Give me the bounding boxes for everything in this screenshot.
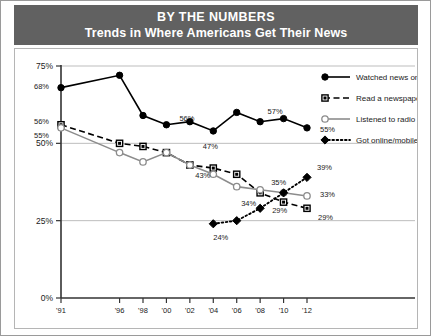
data-point-label: 47% — [203, 142, 218, 151]
data-point-label: 57% — [268, 107, 283, 116]
legend-item-2[interactable]: Read a newspaper — [322, 94, 417, 103]
legend-label: Got online/mobile news — [356, 136, 417, 145]
series-1 — [58, 72, 310, 134]
line-chart-plot: 0%25%50%75%'91'96'98'00'02'04'06'08'10'1… — [15, 49, 417, 328]
chart-title: BY THE NUMBERS — [157, 10, 275, 25]
data-point-label: 56% — [179, 114, 194, 123]
ytick-label: 25% — [36, 216, 53, 226]
xtick-label: '06 — [232, 306, 242, 315]
legend-item-1[interactable]: Watched news on TV — [322, 73, 417, 82]
series-3 — [58, 125, 310, 199]
xtick-label: '02 — [185, 306, 195, 315]
chart-header-bar: BY THE NUMBERS Trends in Where Americans… — [14, 5, 418, 45]
data-point-label: 56% — [34, 117, 49, 126]
xtick-label: '00 — [162, 306, 172, 315]
ytick-label: 75% — [36, 61, 53, 71]
legend-label: Listened to radio news — [356, 115, 417, 124]
series-2 — [58, 122, 310, 212]
xtick-label: '10 — [279, 306, 289, 315]
data-point-label: 29% — [272, 206, 287, 215]
chart-subtitle: Trends in Where Americans Get Their News — [85, 25, 348, 41]
series-4 — [209, 173, 311, 228]
legend-item-3[interactable]: Listened to radio news — [322, 115, 417, 124]
data-point-label: 34% — [241, 199, 256, 208]
data-point-label: 68% — [34, 82, 49, 91]
data-point-label: 55% — [320, 125, 335, 134]
xtick-label: '04 — [208, 306, 218, 315]
chart-panel: 0%25%50%75%'91'96'98'00'02'04'06'08'10'1… — [14, 48, 418, 329]
xtick-label: '91 — [56, 306, 66, 315]
xtick-label: '98 — [138, 306, 148, 315]
data-point-label: 24% — [213, 233, 228, 242]
data-point-label: 43% — [195, 171, 210, 180]
chart-figure: BY THE NUMBERS Trends in Where Americans… — [0, 0, 431, 336]
xtick-label: '12 — [302, 306, 312, 315]
data-point-label: 55% — [34, 131, 49, 140]
xtick-label: '96 — [115, 306, 125, 315]
data-point-label: 29% — [318, 213, 333, 222]
data-point-label: 33% — [320, 190, 335, 199]
ytick-label: 0% — [41, 293, 54, 303]
legend-label: Watched news on TV — [356, 73, 417, 82]
legend-label: Read a newspaper — [356, 94, 417, 103]
data-point-label: 39% — [317, 163, 332, 172]
data-point-label: 35% — [271, 178, 286, 187]
xtick-label: '08 — [255, 306, 265, 315]
